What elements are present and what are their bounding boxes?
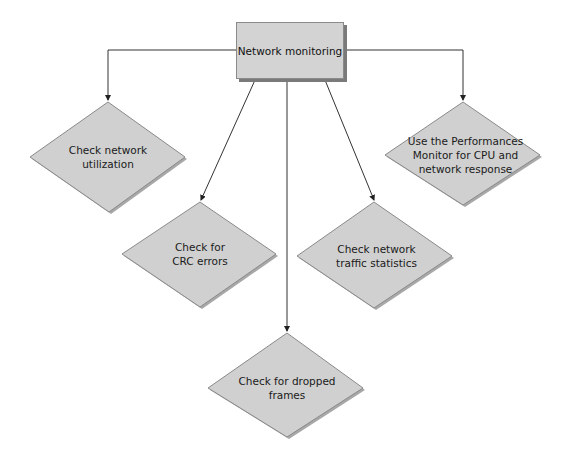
decision-node-dropped-frames: [208, 333, 363, 437]
edge-root-to-utilization: [108, 50, 236, 100]
root-node-label: Network monitoring: [238, 45, 343, 57]
root-node-network-monitoring: Network monitoring: [236, 22, 344, 79]
decision-node-performance-monitor: [385, 102, 540, 205]
decision-node-utilization: [30, 102, 185, 212]
edge-root-to-crc: [201, 80, 255, 200]
decision-node-traffic-statistics: [297, 202, 452, 308]
edge-root-to-traffic: [325, 80, 374, 200]
decision-node-crc-errors: [122, 202, 276, 307]
edge-root-to-performance: [344, 50, 463, 100]
